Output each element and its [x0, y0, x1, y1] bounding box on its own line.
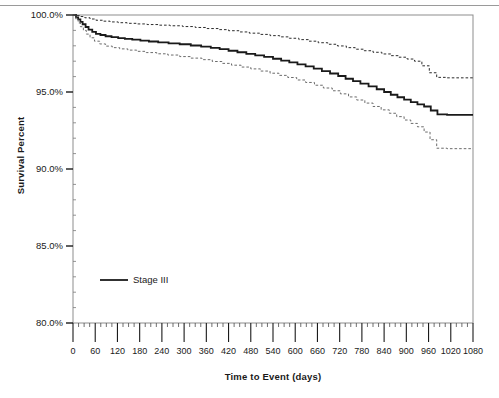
survival-plot-canvas: [0, 0, 499, 398]
x-axis-ticks: [73, 323, 473, 342]
legend-label-stage-iii: Stage III: [133, 274, 168, 285]
x-tick-label: 360: [199, 346, 214, 356]
y-tick-label: 95.0%: [15, 86, 63, 97]
x-tick-label: 1080: [463, 346, 483, 356]
x-tick-label: 60: [90, 346, 100, 356]
y-tick-label: 90.0%: [15, 163, 63, 174]
x-tick-label: 120: [110, 346, 125, 356]
x-tick-label: 660: [310, 346, 325, 356]
x-tick-label: 720: [332, 346, 347, 356]
x-tick-label: 420: [221, 346, 236, 356]
x-axis-title: Time to Event (days): [73, 371, 473, 382]
series-path-2: [73, 15, 473, 149]
x-tick-label: 540: [265, 346, 280, 356]
y-axis-ticks: [66, 15, 76, 323]
series-path-1: [73, 15, 473, 78]
x-tick-label: 840: [377, 346, 392, 356]
x-tick-label: 1020: [441, 346, 461, 356]
x-tick-label: 300: [177, 346, 192, 356]
y-tick-label: 100.0%: [15, 9, 63, 20]
x-tick-label: 0: [70, 346, 75, 356]
y-tick-label: 80.0%: [15, 317, 63, 328]
x-tick-label: 780: [354, 346, 369, 356]
y-tick-label: 85.0%: [15, 240, 63, 251]
series-path-0: [73, 15, 473, 115]
series-group: [73, 15, 473, 149]
x-tick-label: 600: [288, 346, 303, 356]
x-tick-label: 240: [154, 346, 169, 356]
y-axis-title: Survival Percent: [15, 96, 26, 216]
x-tick-label: 480: [243, 346, 258, 356]
x-tick-label: 900: [399, 346, 414, 356]
kaplan-meier-figure: Survival Percent Time to Event (days) 80…: [0, 0, 499, 398]
x-tick-label: 180: [132, 346, 147, 356]
x-tick-label: 960: [421, 346, 436, 356]
